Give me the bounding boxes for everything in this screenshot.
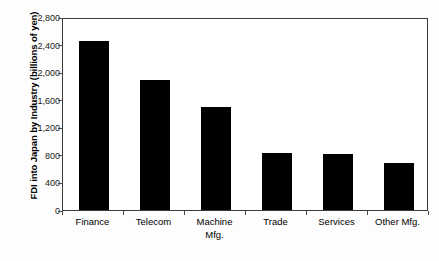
y-tick-label: 1,200 xyxy=(14,124,60,133)
x-tick-label-line1: Other Mfg. xyxy=(375,216,420,227)
bar xyxy=(323,154,353,210)
x-tick-label-line2: Mfg. xyxy=(173,229,257,242)
y-tick-label: 2,800 xyxy=(14,14,60,23)
y-tick-label: 1,600 xyxy=(14,96,60,105)
x-tick-label-line1: Telecom xyxy=(136,216,171,227)
x-tick-mark xyxy=(184,211,185,215)
y-tick-label: 2,400 xyxy=(14,41,60,50)
bar-chart: FDI into Japan by Industry (billions of … xyxy=(0,0,439,261)
x-tick-mark xyxy=(306,211,307,215)
y-tick-label: 0 xyxy=(14,207,60,216)
x-tick-label-line1: Machine xyxy=(197,216,233,227)
x-tick-mark xyxy=(123,211,124,215)
plot-area xyxy=(62,18,428,211)
y-tick-label: 2,000 xyxy=(14,69,60,78)
x-tick-label-line1: Finance xyxy=(76,216,110,227)
x-tick-label-line1: Services xyxy=(318,216,354,227)
x-tick-label-line1: Trade xyxy=(263,216,287,227)
bar xyxy=(201,107,231,210)
y-tick-label: 800 xyxy=(14,151,60,160)
x-tick-mark xyxy=(428,211,429,215)
bar xyxy=(384,163,414,210)
y-tick-label: 400 xyxy=(14,179,60,188)
x-tick-mark xyxy=(245,211,246,215)
x-tick-label: Other Mfg. xyxy=(356,216,439,229)
bar xyxy=(262,153,292,210)
x-tick-mark xyxy=(367,211,368,215)
x-tick-mark xyxy=(62,211,63,215)
bar xyxy=(79,41,109,210)
bar xyxy=(140,80,170,210)
